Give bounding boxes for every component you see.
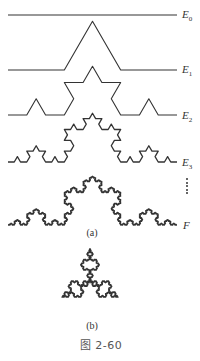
figure-caption: 图 2-60 — [80, 340, 122, 351]
koch-curve-f — [8, 176, 177, 225]
koch-curve-e3 — [8, 113, 177, 162]
koch-curve-e2 — [8, 66, 177, 115]
panel-a-caption: (a) — [86, 228, 97, 238]
koch-curve-figure — [0, 0, 200, 361]
label-E0: E0 — [182, 9, 192, 23]
label-E2: E2 — [182, 110, 192, 124]
label-E1: E1 — [182, 64, 192, 78]
koch-curves-panel-a — [8, 15, 177, 225]
koch-snowflake-panel-b — [62, 249, 118, 298]
label-E3: E3 — [182, 157, 192, 171]
ellipsis-vertical-dots — [186, 178, 188, 196]
panel-b-caption: (b) — [86, 321, 98, 331]
label-F: F — [183, 220, 190, 231]
koch-curve-e1 — [8, 21, 177, 70]
koch-snowflake — [62, 249, 118, 298]
